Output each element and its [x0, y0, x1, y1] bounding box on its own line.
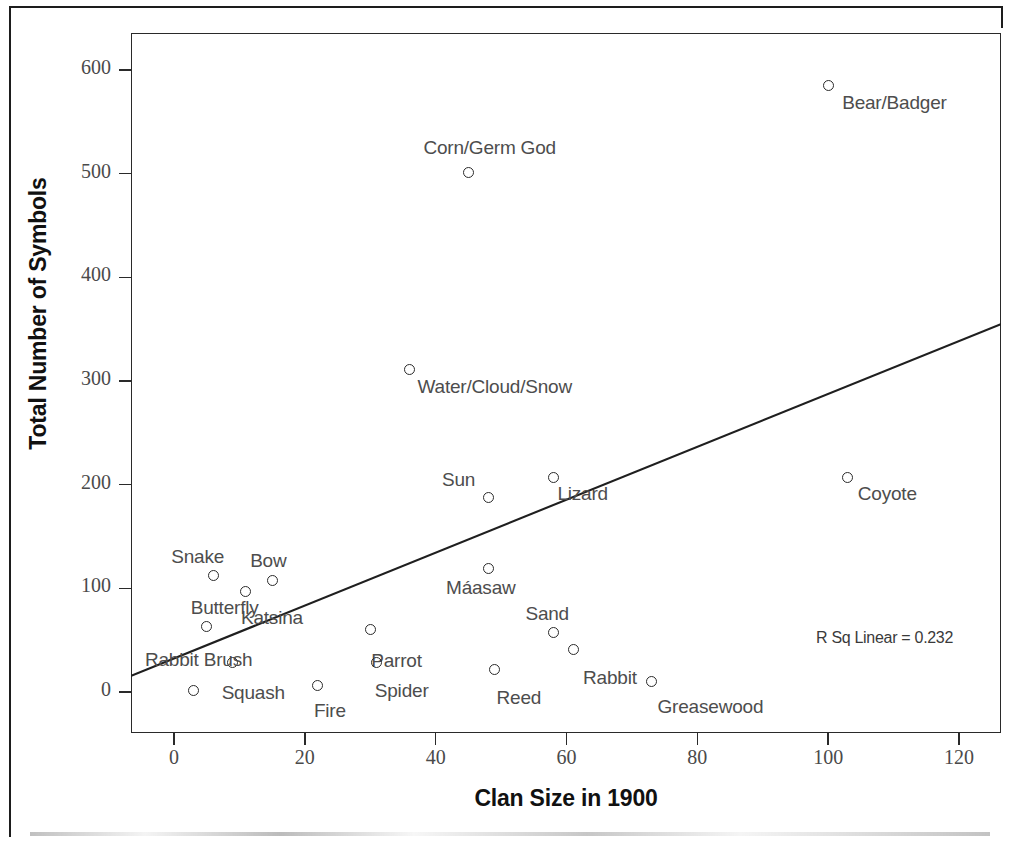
- x-tick-mark: [566, 733, 568, 745]
- data-point[interactable]: [548, 472, 559, 483]
- x-tick-label: 60: [532, 746, 602, 769]
- x-tick-label: 40: [401, 746, 471, 769]
- data-point-label: Reed: [497, 687, 542, 709]
- r-squared-annotation: R Sq Linear = 0.232: [816, 629, 953, 647]
- y-tick-label: 200: [51, 471, 111, 494]
- data-point-label: Máasaw: [446, 577, 516, 599]
- x-tick-label: 80: [662, 746, 732, 769]
- y-tick-label: 100: [51, 574, 111, 597]
- page-border-top: [9, 6, 1003, 8]
- data-point-label: Bow: [250, 550, 286, 572]
- x-tick-mark: [435, 733, 437, 745]
- data-point-label: Fire: [314, 700, 346, 722]
- data-point-label: Lizard: [557, 483, 608, 505]
- y-tick-mark: [119, 277, 131, 279]
- x-tick-label: 100: [793, 746, 863, 769]
- y-tick-label: 0: [51, 678, 111, 701]
- y-tick-mark: [119, 588, 131, 590]
- y-tick-label: 300: [51, 367, 111, 390]
- y-axis-title: Total Number of Symbols: [25, 54, 52, 574]
- y-tick-mark: [119, 380, 131, 382]
- data-point[interactable]: [489, 664, 500, 675]
- y-tick-mark: [119, 691, 131, 693]
- x-tick-label: 0: [139, 746, 209, 769]
- data-point[interactable]: [568, 644, 579, 655]
- data-point-label: Water/Cloud/Snow: [418, 376, 573, 398]
- x-tick-label: 120: [924, 746, 994, 769]
- y-tick-label: 500: [51, 160, 111, 183]
- x-tick-mark: [827, 733, 829, 745]
- data-point[interactable]: [483, 563, 494, 574]
- page-border-left: [9, 6, 11, 837]
- data-point[interactable]: [823, 80, 834, 91]
- page-border-right: [1001, 6, 1003, 28]
- data-point-label: Sun: [442, 469, 475, 491]
- x-axis-title: Clan Size in 1900: [131, 785, 1001, 812]
- x-tick-mark: [304, 733, 306, 745]
- scan-artifact-strip: [30, 832, 990, 836]
- data-point-label: Rabbit Brush: [145, 649, 252, 671]
- data-point[interactable]: [267, 575, 278, 586]
- y-tick-mark: [119, 173, 131, 175]
- data-point[interactable]: [483, 492, 494, 503]
- x-tick-mark: [697, 733, 699, 745]
- scatter-plot-figure: Total Number of Symbols Clan Size in 190…: [0, 0, 1012, 843]
- data-point-label: Coyote: [858, 483, 917, 505]
- y-tick-mark: [119, 69, 131, 71]
- y-tick-label: 600: [51, 56, 111, 79]
- data-point[interactable]: [365, 624, 376, 635]
- data-point-label: Corn/Germ God: [423, 137, 556, 159]
- data-point-label: Snake: [171, 546, 224, 568]
- data-point-label: Rabbit: [583, 667, 637, 689]
- y-tick-mark: [119, 484, 131, 486]
- y-tick-label: 400: [51, 263, 111, 286]
- data-point-label: Butterfly: [191, 597, 259, 619]
- x-tick-mark: [173, 733, 175, 745]
- data-point-label: Sand: [525, 603, 569, 625]
- data-point[interactable]: [463, 167, 474, 178]
- x-tick-label: 20: [270, 746, 340, 769]
- data-point-label: Squash: [222, 682, 285, 704]
- data-point-label: Greasewood: [658, 696, 764, 718]
- data-point-label: Bear/Badger: [842, 92, 946, 114]
- x-tick-mark: [958, 733, 960, 745]
- data-point-label: Spider: [375, 680, 429, 702]
